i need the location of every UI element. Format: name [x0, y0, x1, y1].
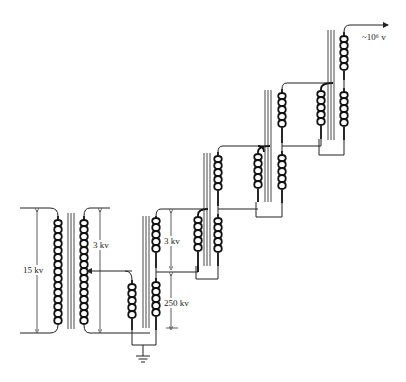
ground-icon — [136, 345, 150, 362]
label-250kv: 250 kv — [163, 298, 190, 308]
label-15kv: 15 kv — [22, 265, 44, 275]
stage-4 — [317, 25, 388, 155]
transformer-cascade-diagram — [0, 0, 406, 382]
stage-2 — [194, 146, 270, 279]
label-3kv: 3 kv — [92, 240, 110, 250]
label-stage-3kv: 3 kv — [163, 236, 181, 246]
secondary-coil — [80, 216, 88, 325]
stage-1 — [125, 209, 208, 362]
output-arrow — [344, 25, 388, 32]
primary-coil — [54, 216, 62, 325]
label-output-voltage: ~10⁶ v — [361, 32, 387, 42]
